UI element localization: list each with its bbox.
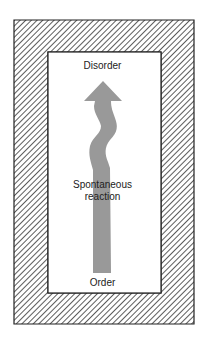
disorder-label: Disorder: [0, 60, 205, 72]
spontaneous-label: Spontaneous: [0, 179, 205, 191]
order-label: Order: [0, 277, 205, 289]
reaction-label: reaction: [0, 191, 205, 203]
diagram-canvas: [0, 0, 205, 341]
